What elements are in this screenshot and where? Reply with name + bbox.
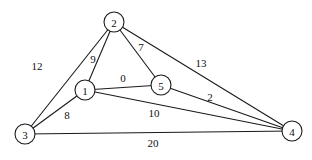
graph-node-2: 2 <box>104 12 124 32</box>
edge-weight-label: 12 <box>32 60 43 72</box>
graph-node-3: 3 <box>15 124 35 144</box>
node-label: 1 <box>82 85 88 97</box>
node-label: 4 <box>289 126 295 138</box>
graph-node-5: 5 <box>151 75 171 95</box>
edge-weight-label: 10 <box>149 107 161 119</box>
node-label: 5 <box>158 80 164 92</box>
graph-node-1: 1 <box>75 80 95 100</box>
edge-5-4 <box>161 85 292 131</box>
edge-weight-label: 13 <box>196 57 208 69</box>
node-label: 3 <box>22 129 28 141</box>
edge-weight-label: 2 <box>207 91 213 103</box>
edge-weight-label: 0 <box>120 72 126 84</box>
edge-2-4 <box>114 22 292 131</box>
edge-1-5 <box>85 85 161 90</box>
graph-canvas: 1297130810220 12345 <box>0 0 312 160</box>
edge-weight-label: 9 <box>90 53 96 65</box>
graph-node-4: 4 <box>282 121 302 141</box>
edge-3-4 <box>25 131 292 134</box>
weighted-graph-diagram: 1297130810220 12345 <box>0 0 312 160</box>
edge-weight-label: 20 <box>148 137 160 149</box>
edge-1-4 <box>85 90 292 131</box>
edge-weight-label: 8 <box>64 109 70 121</box>
node-label: 2 <box>111 17 117 29</box>
edge-weight-label: 7 <box>138 41 144 53</box>
